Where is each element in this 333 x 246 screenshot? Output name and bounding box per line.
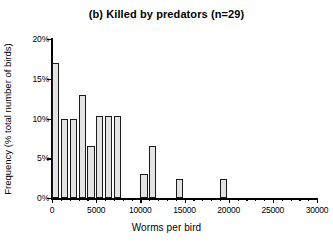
x-tick-major [185,198,186,203]
x-tick-minor [176,198,177,201]
x-tick-minor [167,198,168,201]
x-tick-label: 0 [50,205,55,215]
x-tick-major [317,198,318,203]
y-axis-title: Frequency (% total number of birds) [2,43,13,195]
x-tick-label: 5000 [87,205,105,215]
x-tick-minor [282,198,283,201]
x-tick-minor [87,198,88,201]
bar [79,95,86,198]
x-tick-minor [132,198,133,201]
x-tick-label: 30000 [306,205,329,215]
y-tick-label: 5% [37,153,49,163]
x-tick-minor [61,198,62,201]
y-tick-label: 20% [33,34,49,44]
bar [70,119,77,199]
x-tick-minor [105,198,106,201]
x-tick-label: 10000 [129,205,152,215]
x-tick-minor [79,198,80,201]
bar [87,146,94,198]
chart-title: (b) Killed by predators (n=29) [0,8,333,20]
x-tick-minor [202,198,203,201]
x-tick-minor [149,198,150,201]
plot-area: Frequency (% total number of birds) 0%5%… [52,39,317,198]
x-tick-minor [299,198,300,201]
x-axis-title: Worms per bird [0,222,333,233]
x-tick-minor [255,198,256,201]
x-tick-major [229,198,230,203]
x-tick-major [140,198,141,203]
x-tick-label: 20000 [217,205,240,215]
bar [149,146,156,198]
y-tick-label: 15% [33,74,49,84]
x-tick-major [96,198,97,203]
x-tick-minor [246,198,247,201]
figure-container: (b) Killed by predators (n=29) Frequency… [0,0,333,246]
x-tick-minor [193,198,194,201]
bar [114,116,121,198]
bar [140,174,147,198]
x-tick-major [52,198,53,203]
y-tick-label: 0% [37,193,49,203]
x-tick-label: 25000 [262,205,285,215]
x-tick-label: 15000 [173,205,196,215]
x-tick-minor [291,198,292,201]
y-tick-label: 10% [33,114,49,124]
bar [105,116,112,198]
bar [220,179,227,198]
x-tick-minor [114,198,115,201]
x-tick-minor [211,198,212,201]
x-tick-minor [158,198,159,201]
x-tick-minor [70,198,71,201]
bar [61,119,68,199]
x-tick-minor [238,198,239,201]
x-tick-minor [264,198,265,201]
x-tick-minor [220,198,221,201]
bar [176,179,183,198]
bar [52,63,59,198]
x-tick-minor [308,198,309,201]
x-tick-minor [123,198,124,201]
x-tick-major [273,198,274,203]
bar [96,116,103,198]
